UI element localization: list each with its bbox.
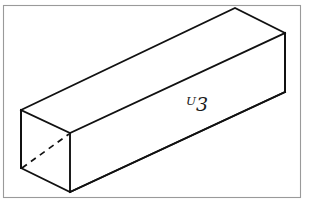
rectangular-prism-diagram: ᵁ3 — [0, 0, 309, 203]
face-label-T: ᵁ3 — [186, 93, 208, 115]
figure-container: ᵁ3 — [0, 0, 309, 203]
